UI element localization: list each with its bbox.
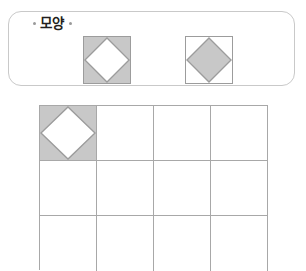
grid-cell-r1c2[interactable] xyxy=(97,106,154,161)
gray-square-white-diamond-icon xyxy=(84,37,130,83)
grid-cell-r3c1[interactable] xyxy=(40,216,97,271)
white-square-gray-diamond-icon xyxy=(186,37,232,83)
grid-cell-r3c4[interactable] xyxy=(211,216,268,271)
grid-cell-r2c4[interactable] xyxy=(211,161,268,216)
answer-grid xyxy=(39,105,268,270)
grid-cell-r1c4[interactable] xyxy=(211,106,268,161)
bullet-dot-left-icon xyxy=(33,22,36,25)
grid-cell-r3c3[interactable] xyxy=(154,216,211,271)
grid-cell-r2c2[interactable] xyxy=(97,161,154,216)
grid-cell-r2c3[interactable] xyxy=(154,161,211,216)
cell-shape-gray-square-white-diamond xyxy=(40,106,96,160)
grid-cell-r3c2[interactable] xyxy=(97,216,154,271)
gray-square-white-diamond-icon xyxy=(40,106,96,160)
grid-cell-r1c3[interactable] xyxy=(154,106,211,161)
shape-reference-panel: 모양 xyxy=(8,11,295,86)
panel-label-group: 모양 xyxy=(31,15,74,32)
reference-shape-2 xyxy=(185,36,233,84)
panel-title: 모양 xyxy=(40,17,65,31)
grid-cell-r1c1[interactable] xyxy=(40,106,97,161)
bullet-dot-right-icon xyxy=(69,22,72,25)
reference-shape-1 xyxy=(83,36,131,84)
grid-cell-r2c1[interactable] xyxy=(40,161,97,216)
